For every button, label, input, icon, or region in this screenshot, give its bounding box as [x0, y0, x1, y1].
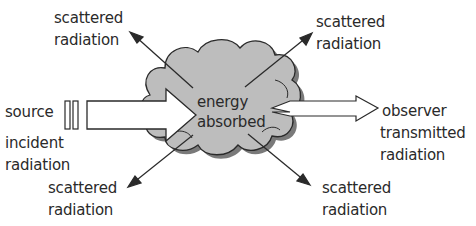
radiation-interaction-diagram: scattered radiation scattered radiation …: [0, 0, 476, 226]
transmitted-label-2: radiation: [380, 145, 445, 165]
source-slit-1: [65, 101, 70, 129]
absorbed-label: absorbed: [197, 112, 266, 132]
scattered-top-right-label-1: scattered: [316, 12, 385, 32]
scattered-bottom-left-label-1: scattered: [48, 178, 117, 198]
scattered-bottom-right-label-1: scattered: [322, 178, 391, 198]
observer-label: observer: [382, 101, 447, 121]
source-slit-2: [73, 101, 78, 129]
transmitted-label-1: transmitted: [380, 123, 466, 143]
scattered-bottom-right-label-2: radiation: [322, 200, 387, 220]
scattered-bottom-left-label-2: radiation: [48, 200, 113, 220]
scattered-top-left-label-1: scattered: [54, 8, 123, 28]
energy-label: energy: [197, 92, 248, 112]
incident-label-1: incident: [5, 133, 64, 153]
scattered-top-left-label-2: radiation: [54, 30, 119, 50]
incident-label-2: radiation: [5, 155, 70, 175]
scattered-top-right-label-2: radiation: [316, 34, 381, 54]
source-label: source: [5, 102, 54, 122]
